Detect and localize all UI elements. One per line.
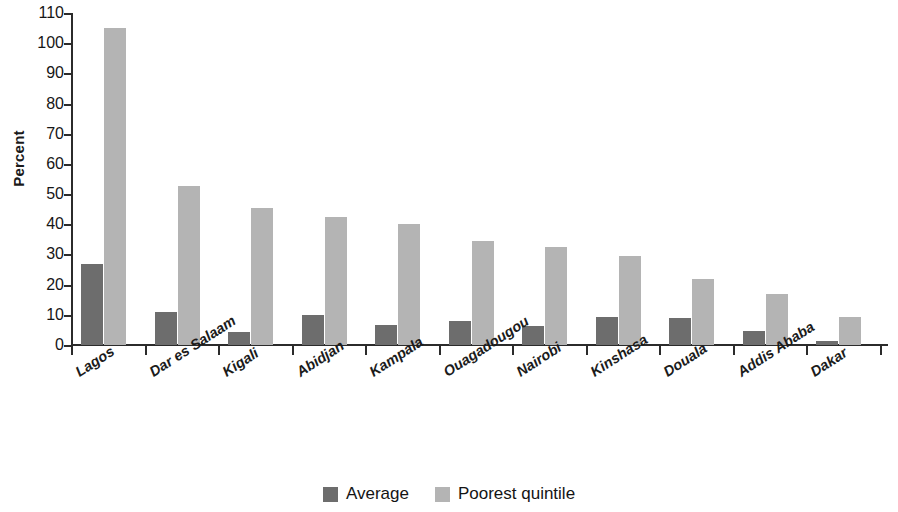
y-axis-tick-label: 50: [20, 186, 64, 202]
y-axis-tick-label: 0: [20, 337, 64, 353]
y-axis-tick-label: 60: [20, 156, 64, 172]
y-axis-tick-label: 90: [20, 65, 64, 81]
legend-swatch-poor: [435, 487, 450, 502]
bar-average: [596, 317, 618, 345]
x-axis-tick-mark: [292, 346, 294, 355]
bar-poorest-quintile: [251, 208, 273, 345]
x-axis-label-douala: Douala: [661, 341, 709, 379]
x-axis-tick-mark: [512, 346, 514, 355]
y-axis-tick-label: 70: [20, 126, 64, 142]
y-axis-tick-label: 20: [20, 277, 64, 293]
x-axis-tick-mark: [806, 346, 808, 355]
bar-poorest-quintile: [472, 241, 494, 345]
y-axis-tick-mark: [64, 43, 71, 45]
y-axis-tick-mark: [64, 345, 71, 347]
x-axis-label-dakar: Dakar: [808, 345, 850, 379]
x-axis-tick-mark: [733, 346, 735, 355]
y-axis-tick-label: 10: [20, 307, 64, 323]
bar-average: [743, 331, 765, 345]
bar-average: [669, 318, 691, 345]
y-axis-tick-label: 40: [20, 216, 64, 232]
bar-average: [228, 332, 250, 345]
y-axis-tick-mark: [64, 285, 71, 287]
y-axis-tick-label: 110: [20, 5, 64, 21]
legend-swatch-avg: [323, 487, 338, 502]
bar-poorest-quintile: [839, 317, 861, 345]
y-axis-tick-label: 100: [20, 35, 64, 51]
bar-poorest-quintile: [178, 186, 200, 345]
y-axis-tick-mark: [64, 13, 71, 15]
y-axis-tick-label: 30: [20, 246, 64, 262]
y-axis-tick-mark: [64, 73, 71, 75]
legend-label: Average: [346, 484, 409, 504]
x-axis-tick-mark: [659, 346, 661, 355]
x-axis-label-lagos: Lagos: [73, 344, 117, 379]
y-axis-tick-mark: [64, 104, 71, 106]
x-axis-tick-mark: [365, 346, 367, 355]
x-axis-tick-mark: [880, 346, 882, 355]
bar-poorest-quintile: [545, 247, 567, 345]
bar-average: [81, 264, 103, 345]
x-axis-tick-mark: [586, 346, 588, 355]
y-axis-tick-label: 80: [20, 96, 64, 112]
y-axis-tick-mark: [64, 134, 71, 136]
bar-average: [816, 341, 838, 345]
bar-chart: Percent 0102030405060708090100110 LagosD…: [0, 0, 898, 512]
y-axis-tick-mark: [64, 315, 71, 317]
legend-item: Average: [323, 484, 409, 504]
plot-area: [73, 13, 888, 345]
bar-average: [375, 325, 397, 345]
chart-legend: AveragePoorest quintile: [0, 484, 898, 504]
bar-average: [449, 321, 471, 345]
x-axis-tick-mark: [218, 346, 220, 355]
bar-average: [155, 312, 177, 345]
x-axis-tick-mark: [71, 346, 73, 355]
y-axis-tick-mark: [64, 194, 71, 196]
y-axis-tick-mark: [64, 254, 71, 256]
bar-average: [302, 315, 324, 345]
bar-poorest-quintile: [104, 28, 126, 345]
bar-poorest-quintile: [692, 279, 714, 345]
bar-poorest-quintile: [398, 224, 420, 345]
x-axis-tick-mark: [145, 346, 147, 355]
y-axis-tick-mark: [64, 164, 71, 166]
x-axis-label-kigali: Kigali: [220, 346, 261, 380]
y-axis-tick-labels: 0102030405060708090100110: [16, 0, 64, 360]
bar-poorest-quintile: [325, 217, 347, 345]
y-axis-tick-mark: [64, 224, 71, 226]
legend-item: Poorest quintile: [435, 484, 575, 504]
legend-label: Poorest quintile: [458, 484, 575, 504]
x-axis-tick-mark: [439, 346, 441, 355]
bar-poorest-quintile: [619, 256, 641, 345]
